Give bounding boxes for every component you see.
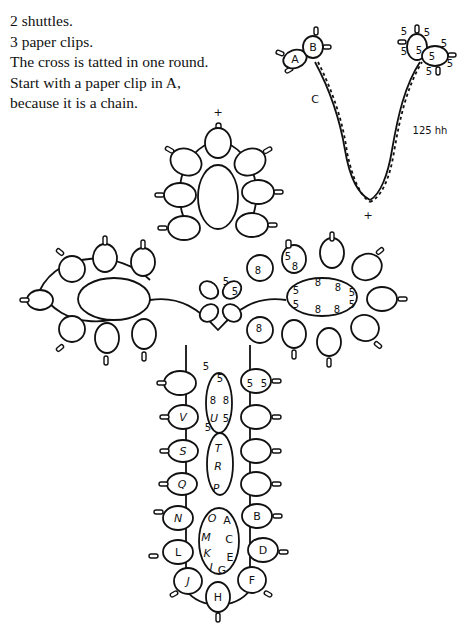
count: 5 xyxy=(223,413,229,424)
label-k: K xyxy=(203,547,211,560)
count: 5 xyxy=(401,46,407,57)
count: 5 xyxy=(247,378,253,389)
center-rings: 5 5 8 8 xyxy=(150,255,286,343)
count: 8 xyxy=(315,277,321,288)
count: 5 xyxy=(429,51,435,62)
count: 5 xyxy=(424,27,430,38)
count: 5 xyxy=(205,422,211,433)
count: 8 xyxy=(255,265,261,276)
left-arm-rings xyxy=(20,236,156,365)
label-a: A xyxy=(223,514,231,527)
count: 5 xyxy=(217,373,223,384)
count: 8 xyxy=(223,395,229,406)
label-o: O xyxy=(208,512,217,525)
count: 5 xyxy=(349,299,355,310)
count: 8 xyxy=(315,304,321,315)
count: 5 xyxy=(441,38,447,49)
count: 8 xyxy=(335,282,341,293)
count: 5 xyxy=(223,276,229,287)
ring-p-label: P xyxy=(213,482,220,495)
label-g: G xyxy=(218,564,227,577)
count: 5 xyxy=(447,58,453,69)
ring-a-label: A xyxy=(291,53,299,66)
chain-count-label: 125 hh xyxy=(413,125,448,136)
ring-b-stem-label: B xyxy=(253,510,261,523)
ring-n-label: N xyxy=(174,512,182,525)
count: 5 xyxy=(232,286,238,297)
count: 8 xyxy=(292,261,298,272)
label-i: I xyxy=(209,561,212,574)
ring-q-label: Q xyxy=(178,478,187,491)
ring-f-label: F xyxy=(249,574,255,587)
cross-diagram: + xyxy=(20,106,407,623)
count: 5 xyxy=(293,285,299,296)
ring-r-label: R xyxy=(214,460,222,473)
count: 8 xyxy=(334,304,340,315)
count: 5 xyxy=(293,299,299,310)
count: 5 xyxy=(349,287,355,298)
count: 8 xyxy=(256,323,262,334)
count: 5 xyxy=(285,251,291,262)
label-e: E xyxy=(227,551,234,564)
count: 5 xyxy=(203,361,209,372)
label-c: C xyxy=(225,533,233,546)
chain-c-label: C xyxy=(311,93,319,106)
count: 8 xyxy=(210,395,216,406)
tatting-diagram: A B C 125 hh + 5 5 5 5 5 5 5 5 + xyxy=(0,0,473,633)
label-m: M xyxy=(201,531,211,544)
inset-diagram: A B C 125 hh + 5 5 5 5 5 5 5 5 xyxy=(276,25,456,222)
ring-b-label: B xyxy=(309,41,317,54)
count: 5 xyxy=(261,378,267,389)
right-arm-rings: 5 8 5 8 8 5 5 8 8 5 xyxy=(282,232,407,367)
top-arm-rings xyxy=(155,123,283,240)
inset-cross-mark: + xyxy=(363,209,372,222)
top-cross-mark: + xyxy=(213,106,222,119)
count: 5 xyxy=(426,66,432,77)
ring-h-label: H xyxy=(214,591,222,604)
count: 5 xyxy=(416,45,422,56)
ring-s-label: S xyxy=(180,445,187,458)
ring-d-label: D xyxy=(259,544,267,557)
ring-l-label: L xyxy=(175,546,182,559)
count: 5 xyxy=(401,26,407,37)
stem-rings: V S Q N L J H 5 5 xyxy=(149,345,288,622)
